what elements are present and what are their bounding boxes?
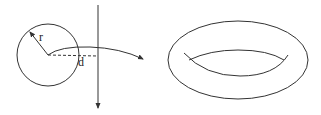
curved-trajectory-arrow bbox=[48, 47, 143, 59]
left-figure: r d bbox=[17, 5, 143, 108]
torus-inner-lower-curve bbox=[184, 53, 288, 76]
torus-inner-upper-curve bbox=[189, 50, 284, 60]
distance-dashed-line bbox=[48, 55, 98, 56]
torus-figure bbox=[168, 21, 308, 99]
distance-label: d bbox=[78, 55, 84, 69]
radius-label: r bbox=[39, 30, 43, 44]
diagram-canvas: r d bbox=[0, 0, 321, 115]
